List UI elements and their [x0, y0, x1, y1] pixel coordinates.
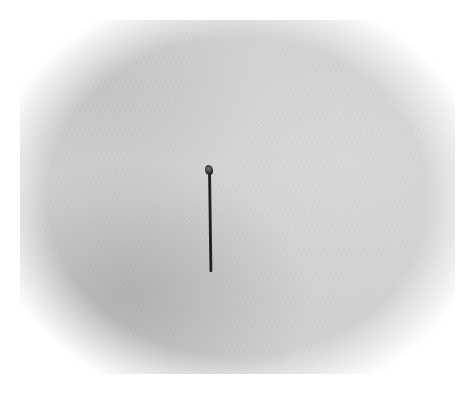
pin-head: [205, 165, 213, 175]
grain-texture: [20, 20, 455, 374]
photo-background: [20, 20, 455, 374]
